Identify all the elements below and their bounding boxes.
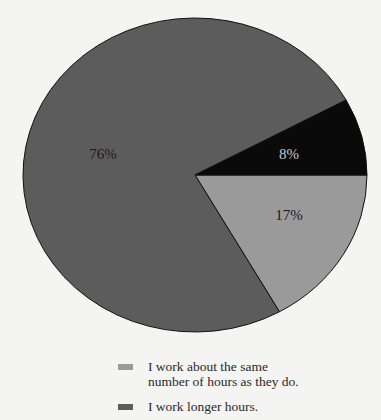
legend-item-longer-hours: I work longer hours. [118, 399, 299, 414]
slice-label: 76% [89, 146, 117, 162]
legend-swatch-dark-gray [118, 404, 133, 410]
legend: I work about the same number of hours as… [118, 359, 299, 414]
legend-label: I work longer hours. [148, 399, 299, 414]
legend-label-line1: I work about the same [148, 359, 299, 374]
pie-chart [0, 0, 381, 340]
slice-label: 8% [279, 146, 299, 162]
legend-label-line2: number of hours as they do. [148, 374, 299, 389]
legend-swatch-light-gray [118, 364, 133, 370]
slice-label: 17% [275, 207, 303, 223]
legend-item-same-hours: I work about the same number of hours as… [118, 359, 299, 389]
